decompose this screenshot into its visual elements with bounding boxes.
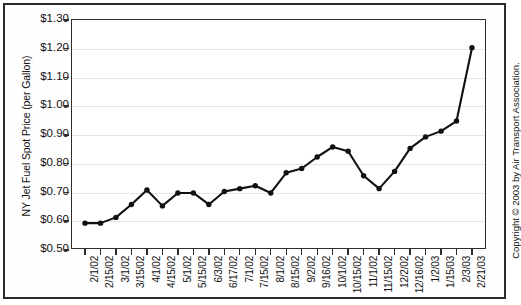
data-point-marker: [82, 220, 87, 225]
x-tick-label: 2/1/02: [89, 256, 100, 283]
y-tick-mark: [64, 249, 69, 251]
x-tick-label: 5/1/02: [182, 256, 193, 283]
x-tick-mark: [224, 249, 225, 255]
x-tick-mark: [239, 249, 240, 255]
data-point-marker: [222, 189, 227, 194]
data-point-marker: [315, 154, 320, 159]
x-tick-mark: [100, 249, 101, 255]
y-tick-mark: [64, 220, 69, 222]
x-tick-mark: [131, 249, 132, 255]
data-point-marker: [407, 146, 412, 151]
data-point-marker: [237, 186, 242, 191]
y-tick-mark: [64, 77, 69, 79]
data-point-marker: [129, 202, 134, 207]
chart-frame: NY Jet Fuel Spot Price (per Gallon) $1.3…: [3, 3, 506, 299]
data-point-marker: [330, 144, 335, 149]
data-point-marker: [253, 183, 258, 188]
data-point-marker: [284, 170, 289, 175]
x-tick-mark: [409, 249, 410, 255]
x-tick-label: 2/15/02: [104, 256, 115, 288]
y-tick-mark: [64, 163, 69, 165]
y-tick-label: $1.00: [7, 98, 69, 110]
x-tick-mark: [456, 249, 457, 255]
x-tick-label: 3/1/02: [120, 256, 131, 283]
y-tick-label: $0.90: [7, 127, 69, 139]
x-tick-mark: [394, 249, 395, 255]
x-tick-mark: [162, 249, 163, 255]
x-tick-mark: [363, 249, 364, 255]
x-tick-mark: [378, 249, 379, 255]
y-tick-label: $0.80: [7, 156, 69, 168]
y-axis-tick-labels: $1.30$1.20$1.10$1.00$0.90$0.80$0.70$0.60…: [5, 19, 69, 249]
x-tick-label: 11/15/02: [383, 256, 394, 293]
x-tick-label: 10/1/02: [337, 256, 348, 288]
data-point-marker: [206, 202, 211, 207]
series-line: [85, 48, 472, 223]
x-tick-label: 6/3/02: [213, 256, 224, 283]
x-tick-label: 2/21/03: [476, 256, 487, 288]
x-tick-mark: [208, 249, 209, 255]
x-tick-label: 8/15/02: [290, 256, 301, 288]
y-tick-label: $1.10: [7, 70, 69, 82]
plot-area: [71, 19, 486, 249]
data-point-marker: [438, 128, 443, 133]
y-tick-label: $1.20: [7, 41, 69, 53]
x-tick-mark: [146, 249, 147, 255]
data-point-marker: [113, 215, 118, 220]
y-tick-label: $0.60: [7, 213, 69, 225]
x-tick-mark: [425, 249, 426, 255]
x-tick-label: 6/17/02: [228, 256, 239, 288]
x-tick-mark: [440, 249, 441, 255]
x-tick-label: 4/1/02: [151, 256, 162, 283]
x-tick-label: 4/15/02: [166, 256, 177, 288]
x-tick-label: 12/16/02: [414, 256, 425, 293]
x-tick-mark: [347, 249, 348, 255]
x-tick-label: 3/15/02: [135, 256, 146, 288]
y-tick-mark: [64, 48, 69, 50]
data-point-marker: [268, 190, 273, 195]
data-point-marker: [175, 190, 180, 195]
data-point-marker: [345, 149, 350, 154]
x-tick-mark: [317, 249, 318, 255]
y-tick-mark: [64, 19, 69, 21]
y-tick-label: $0.70: [7, 185, 69, 197]
data-point-marker: [144, 187, 149, 192]
x-tick-label: 9/16/02: [321, 256, 332, 288]
data-point-marker: [454, 118, 459, 123]
data-point-marker: [376, 186, 381, 191]
x-tick-label: 1/2/03: [430, 256, 441, 283]
data-point-marker: [191, 190, 196, 195]
x-tick-mark: [255, 249, 256, 255]
data-point-marker: [469, 45, 474, 50]
data-point-marker: [299, 166, 304, 171]
x-tick-mark: [270, 249, 271, 255]
data-point-marker: [160, 203, 165, 208]
x-tick-mark: [332, 249, 333, 255]
y-tick-label: $1.30: [7, 12, 69, 24]
x-tick-mark: [177, 249, 178, 255]
data-point-marker: [392, 169, 397, 174]
x-tick-mark: [193, 249, 194, 255]
data-point-marker: [423, 134, 428, 139]
x-tick-label: 9/2/02: [306, 256, 317, 283]
x-tick-label: 2/3/03: [461, 256, 472, 283]
y-tick-mark: [64, 105, 69, 107]
x-tick-label: 8/1/02: [275, 256, 286, 283]
x-tick-label: 1/15/03: [445, 256, 456, 288]
x-tick-mark: [115, 249, 116, 255]
x-tick-mark: [301, 249, 302, 255]
data-point-marker: [361, 173, 366, 178]
x-tick-mark: [286, 249, 287, 255]
y-tick-label: $0.50: [7, 242, 69, 254]
x-tick-label: 11/1/02: [368, 256, 379, 287]
x-tick-label: 10/15/02: [352, 256, 363, 293]
x-tick-label: 7/15/02: [259, 256, 270, 288]
x-axis-tick-labels: 2/1/022/15/023/1/023/15/024/1/024/15/025…: [71, 256, 486, 305]
x-tick-label: 12/2/02: [399, 256, 410, 288]
fuel-price-line-series: [71, 19, 486, 249]
x-tick-mark: [471, 249, 472, 255]
x-tick-label: 7/1/02: [244, 256, 255, 283]
x-tick-mark: [84, 249, 85, 255]
y-tick-mark: [64, 134, 69, 136]
x-tick-label: 5/15/02: [197, 256, 208, 288]
